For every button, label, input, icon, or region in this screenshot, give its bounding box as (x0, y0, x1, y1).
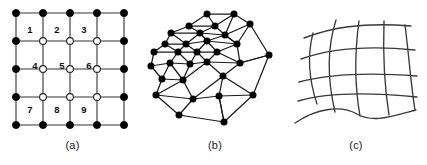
grid-node-number-7: 7 (27, 104, 32, 115)
mesh-node (197, 30, 204, 37)
mesh-node (175, 49, 182, 56)
curvilinear-line-horizontal (299, 74, 417, 82)
mesh-node (222, 32, 229, 39)
mesh-edge (219, 96, 224, 122)
mesh-node (190, 96, 197, 103)
grid-node-interior (94, 38, 101, 45)
mesh-edge (156, 80, 183, 95)
mesh-edge (156, 95, 179, 115)
panel-curvilinear-grid: (c) (285, 0, 427, 165)
grid-node-interior (67, 94, 74, 101)
mesh-node (231, 11, 238, 18)
unstructured-mesh-svg (145, 0, 285, 138)
mesh-edge (240, 55, 269, 63)
mesh-edge (217, 52, 240, 63)
mesh-edge (207, 62, 240, 63)
mesh-node (167, 60, 174, 67)
mesh-node (214, 49, 221, 56)
curvilinear-line-vertical (329, 20, 336, 112)
curvilinear-line-vertical (356, 21, 360, 116)
mesh-node (168, 30, 175, 37)
grid-node-number-2: 2 (54, 24, 59, 35)
mesh-edge (223, 76, 253, 95)
grid-node-number-5: 5 (59, 60, 65, 71)
grid-node-boundary (66, 9, 73, 16)
mesh-edge (156, 95, 193, 99)
panel-structured-grid: 123456789 (a) (0, 0, 145, 165)
grid-node-boundary (39, 121, 46, 128)
grid-node-number-9: 9 (81, 104, 86, 115)
grid-node-boundary (12, 65, 19, 72)
mesh-node (250, 92, 257, 99)
mesh-edge (200, 33, 225, 35)
mesh-edge (219, 95, 253, 96)
grid-node-interior (67, 66, 74, 73)
grid-node-interior (94, 66, 101, 73)
curvilinear-line-vertical (384, 21, 389, 115)
mesh-node (186, 23, 193, 30)
mesh-node (234, 41, 241, 48)
figure-root: 123456789 (a) (b) (c) (0, 0, 427, 165)
grid-node-interior (67, 38, 74, 45)
grid-node-interior (40, 38, 47, 45)
mesh-edge (224, 95, 253, 122)
mesh-node (183, 41, 190, 48)
mesh-edge (207, 41, 237, 44)
mesh-edge (179, 115, 224, 122)
grid-node-boundary (120, 37, 127, 44)
mesh-node (247, 21, 254, 28)
mesh-node (266, 52, 273, 59)
mesh-edge (253, 55, 269, 95)
grid-node-number-6: 6 (86, 60, 91, 71)
mesh-node (148, 63, 155, 70)
mesh-node (180, 77, 187, 84)
grid-node-boundary (120, 121, 127, 128)
mesh-node (204, 38, 211, 45)
mesh-node (216, 93, 223, 100)
mesh-node (221, 119, 228, 126)
mesh-node (162, 41, 169, 48)
mesh-node (212, 23, 219, 30)
grid-node-boundary (12, 121, 19, 128)
grid-node-boundary (12, 37, 19, 44)
mesh-node (187, 61, 194, 68)
panel-unstructured-mesh: (b) (145, 0, 285, 165)
mesh-node (159, 76, 166, 83)
structured-grid-svg: 123456789 (0, 0, 145, 138)
mesh-node (237, 60, 244, 67)
grid-node-boundary (12, 93, 19, 100)
grid-node-boundary (120, 9, 127, 16)
grid-node-boundary (120, 93, 127, 100)
mesh-edge (250, 24, 269, 55)
mesh-node (176, 112, 183, 119)
grid-node-boundary (93, 121, 100, 128)
panel-b-caption: (b) (145, 138, 285, 152)
curvilinear-line-horizontal (301, 48, 415, 59)
mesh-node (151, 49, 158, 56)
grid-node-boundary (93, 9, 100, 16)
grid-node-number-3: 3 (81, 24, 86, 35)
mesh-node (204, 11, 211, 18)
curvilinear-line-vertical (405, 25, 415, 110)
curvilinear-line-horizontal (295, 109, 416, 123)
curvilinear-line-vertical (310, 33, 317, 104)
grid-node-interior (40, 66, 47, 73)
mesh-node (220, 73, 227, 80)
grid-node-boundary (66, 121, 73, 128)
mesh-edges-group (151, 14, 269, 122)
curvilinear-grid-svg (285, 0, 427, 138)
mesh-node (204, 59, 211, 66)
mesh-node (194, 49, 201, 56)
mesh-node (153, 92, 160, 99)
grid-node-number-1: 1 (27, 24, 33, 35)
grid-node-number-4: 4 (32, 60, 38, 71)
grid-node-boundary (120, 65, 127, 72)
panel-a-caption: (a) (0, 138, 145, 152)
grid-node-interior (94, 94, 101, 101)
curvilinear-vertical-lines-group (310, 20, 415, 116)
panel-c-caption: (c) (285, 138, 427, 152)
grid-node-number-8: 8 (54, 104, 59, 115)
grid-node-interior (40, 94, 47, 101)
grid-node-boundary (39, 9, 46, 16)
grid-node-boundary (12, 9, 19, 16)
